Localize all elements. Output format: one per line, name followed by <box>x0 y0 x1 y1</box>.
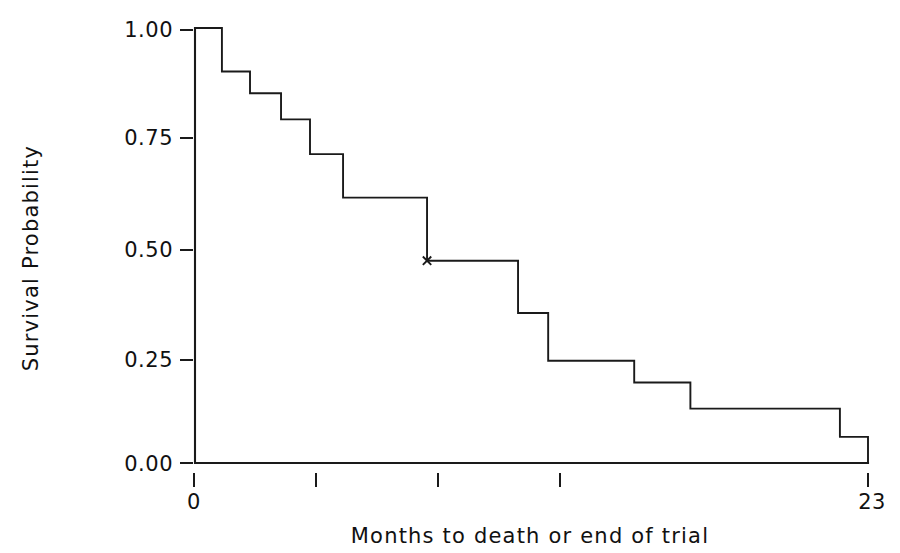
x-tick-label-0: 0 <box>187 490 201 514</box>
survival-curve-figure: 1.00 0.75 0.50 0.25 0.00 0 23 Months to … <box>0 0 900 553</box>
x-axis-title: Months to death or end of trial <box>351 524 709 548</box>
survival-step-curve <box>195 28 868 463</box>
axis-spines <box>195 28 868 463</box>
x-tick-label-23: 23 <box>858 490 886 514</box>
y-tick-label-3: 0.50 <box>124 238 173 262</box>
y-tick-label-4: 0.25 <box>124 348 173 372</box>
y-tick-label-2: 0.75 <box>124 126 173 150</box>
y-tick-label-1: 1.00 <box>124 18 173 42</box>
y-tick-label-5: 0.00 <box>124 452 173 476</box>
kaplan-meier-chart: 1.00 0.75 0.50 0.25 0.00 0 23 Months to … <box>0 0 900 553</box>
y-axis-title: Survival Probability <box>19 145 43 371</box>
